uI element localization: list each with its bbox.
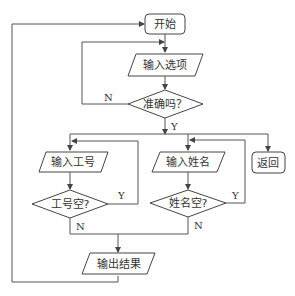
decision-name-empty-label: 姓名空? [169,196,208,210]
flowchart: 开始 N 输入选项 准确吗？ Y 输入工号 工号空? Y N 输入姓名 [0,0,295,296]
return-node: 返回 [252,152,285,173]
decision-id-empty-node: 工号空? [32,190,108,218]
input-id-label: 输入工号 [51,155,95,169]
label-id-empty-no: N [76,221,85,232]
label-correct-yes: Y [170,121,178,132]
label-name-empty-no: N [194,220,203,231]
start-label: 开始 [154,17,176,31]
decision-name-empty-node: 姓名空? [150,190,226,217]
start-node: 开始 [145,14,185,34]
decision-id-empty-label: 工号空? [51,197,90,211]
label-id-empty-yes: Y [117,190,125,201]
input-option-label: 输入选项 [143,58,187,72]
return-label: 返回 [257,157,279,170]
output-result-node: 输出结果 [82,253,155,274]
input-id-node: 输入工号 [39,152,108,172]
input-name-label: 输入姓名 [166,155,210,169]
decision-correct-node: 准确吗？ [128,90,203,118]
output-result-label: 输出结果 [97,257,141,271]
input-name-node: 输入姓名 [152,152,225,172]
input-option-node: 输入选项 [128,54,203,76]
decision-correct-label: 准确吗？ [143,98,187,111]
label-correct-no: N [104,92,113,103]
label-name-empty-yes: Y [231,190,239,201]
